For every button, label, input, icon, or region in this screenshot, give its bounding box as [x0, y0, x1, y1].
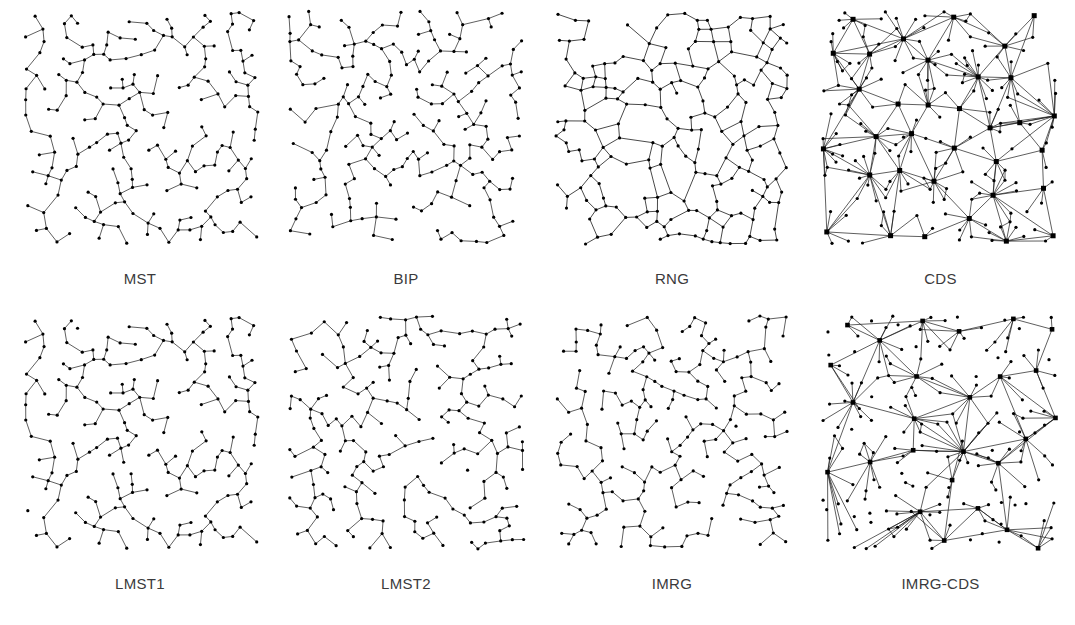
graph-node	[899, 189, 902, 192]
graph-node	[909, 324, 912, 327]
graph-node	[227, 375, 230, 378]
graph-node	[836, 60, 839, 63]
graph-node	[97, 542, 100, 545]
graph-node	[38, 356, 41, 359]
graph-node	[624, 357, 627, 360]
graph-hub-node	[1011, 317, 1016, 322]
graph-node	[335, 366, 338, 369]
graph-hub-node	[1017, 120, 1022, 125]
graph-node	[990, 239, 993, 242]
graph-node	[122, 505, 125, 508]
graph-node	[624, 162, 627, 165]
graph-node	[480, 146, 483, 149]
graph-node	[933, 63, 936, 66]
graph-node	[360, 517, 363, 520]
graph-node	[1009, 496, 1012, 499]
graph-node	[204, 57, 207, 60]
graph-node	[482, 345, 485, 348]
graph-node	[189, 521, 192, 524]
graph-node	[1044, 239, 1047, 242]
graph-node	[502, 234, 505, 237]
graph-node	[757, 125, 760, 128]
graph-node	[498, 188, 501, 191]
graph-node	[239, 201, 242, 204]
graph-node	[653, 380, 656, 383]
graph-edges	[25, 13, 257, 244]
graph-node	[316, 397, 319, 400]
graph-node	[1033, 228, 1036, 231]
graph-node	[351, 376, 354, 379]
graph-node	[368, 546, 371, 549]
graph-node	[234, 80, 237, 83]
graph-node	[654, 419, 657, 422]
graph-hub-node	[1050, 327, 1055, 332]
graph-node	[672, 389, 675, 392]
graph-node	[645, 226, 648, 229]
graph-node	[838, 532, 841, 535]
graph-node	[666, 13, 669, 16]
graph-node	[237, 316, 240, 319]
graph-node	[288, 32, 291, 35]
graph-node	[902, 430, 905, 433]
graph-node	[915, 345, 918, 348]
graph-node	[71, 442, 74, 445]
graph-node	[554, 134, 557, 137]
graph-node	[769, 389, 772, 392]
graph-node	[421, 124, 424, 127]
graph-node	[625, 102, 628, 105]
graph-node	[977, 63, 980, 66]
graph-node	[870, 319, 873, 322]
graph-node	[853, 515, 856, 518]
graph-node	[506, 445, 509, 448]
graph-node	[970, 235, 973, 238]
graph-node	[510, 538, 513, 541]
graph-node	[328, 497, 331, 500]
graph-node	[132, 73, 135, 76]
graph-node	[856, 197, 859, 200]
graph-node	[105, 348, 108, 351]
graph-node	[150, 418, 153, 421]
graph-node	[307, 10, 310, 13]
graph-node	[440, 85, 443, 88]
graph-node	[379, 422, 382, 425]
graph-node	[1018, 430, 1021, 433]
graph-node	[784, 540, 787, 543]
graph-edges	[557, 316, 787, 547]
graph-node	[996, 55, 999, 58]
graph-plot-rng	[550, 6, 795, 249]
graph-node	[101, 223, 104, 226]
graph-node	[744, 413, 747, 416]
graph-node	[93, 117, 96, 120]
graph-node	[880, 78, 883, 81]
graph-node	[435, 516, 438, 519]
graph-node	[669, 191, 672, 194]
graph-node	[243, 472, 246, 475]
graph-node	[690, 128, 693, 131]
graph-node	[572, 533, 575, 536]
graph-node	[106, 31, 109, 34]
graph-node	[127, 20, 130, 23]
graph-node	[487, 366, 490, 369]
graph-node	[23, 35, 26, 38]
graph-node	[732, 74, 735, 77]
graph-node	[1006, 336, 1009, 339]
graph-node	[61, 57, 64, 60]
graph-node	[147, 454, 150, 457]
graph-node	[950, 374, 953, 377]
graph-node	[869, 521, 872, 524]
graph-node	[231, 436, 234, 439]
graph-svg-bip	[284, 6, 529, 249]
graph-hub-node	[950, 478, 955, 483]
graph-node	[375, 339, 378, 342]
graph-node	[239, 354, 242, 357]
graph-node	[105, 133, 108, 136]
graph-node	[195, 491, 198, 494]
graph-node	[468, 373, 471, 376]
graph-node	[314, 201, 317, 204]
graph-node	[213, 163, 216, 166]
graph-node	[938, 115, 941, 118]
graph-node	[764, 325, 767, 328]
graph-node	[87, 451, 90, 454]
graph-node	[419, 328, 422, 331]
graph-node	[405, 408, 408, 411]
